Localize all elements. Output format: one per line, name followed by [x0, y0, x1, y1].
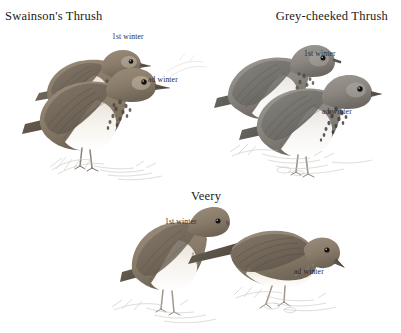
species-title-swainsons: Swainson's Thrush [5, 9, 102, 24]
label-swainsons-1st-winter: 1st winter [112, 32, 144, 41]
ground-sketch-swainsons [48, 148, 178, 186]
ground-sketch-greycheeked [228, 138, 378, 180]
label-greycheeked-ad-winter: ad winter [322, 107, 352, 116]
bird-plate: Swainson's Thrush [0, 0, 401, 333]
label-greycheeked-1st-winter: 1st winter [304, 49, 336, 58]
ground-sketch-veery-left [110, 296, 230, 332]
species-title-grey-cheeked: Grey-cheeked Thrush [276, 9, 388, 24]
ground-sketch-veery-right [232, 282, 362, 322]
background-wash-sketch [165, 48, 210, 88]
label-veery-ad-winter: ad winter [294, 267, 324, 276]
